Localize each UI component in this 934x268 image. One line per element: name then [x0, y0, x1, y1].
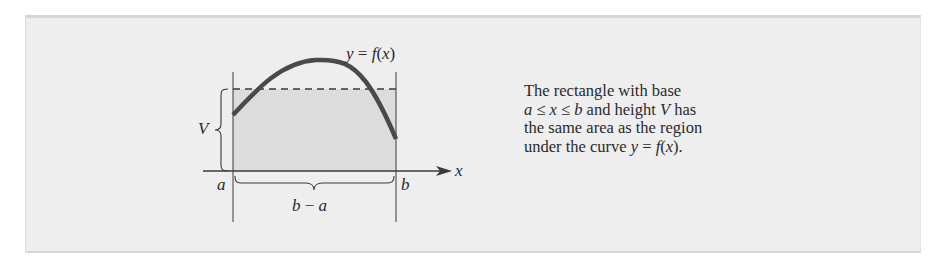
caption-line-4: under the curve y = f(x).: [524, 138, 744, 157]
curve-label: y = f(x): [344, 44, 395, 63]
axis-label: x: [454, 161, 463, 180]
caption-line-2: a ≤ x ≤ b and height V has: [524, 101, 744, 120]
width-label: b − a: [292, 196, 327, 215]
caption-line-1: The rectangle with base: [524, 82, 744, 101]
average-rectangle: [233, 89, 396, 171]
figure-caption: The rectangle with base a ≤ x ≤ b and he…: [524, 82, 744, 156]
height-brace: [215, 89, 228, 171]
left-bound-label: a: [217, 175, 226, 194]
caption-line-3: the same area as the region: [524, 119, 744, 138]
width-brace: [235, 176, 394, 190]
right-bound-label: b: [401, 175, 410, 194]
mean-value-diagram: y = f(x) V x a b b − a: [0, 0, 934, 268]
height-label: V: [198, 119, 211, 138]
